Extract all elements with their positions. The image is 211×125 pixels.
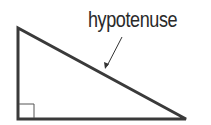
hypotenuse-label: hypotenuse: [88, 9, 177, 31]
right-triangle-diagram: hypotenuse: [0, 0, 211, 125]
triangle-shape: [18, 28, 186, 119]
right-angle-marker: [19, 104, 34, 118]
arrow-shaft: [107, 37, 122, 66]
